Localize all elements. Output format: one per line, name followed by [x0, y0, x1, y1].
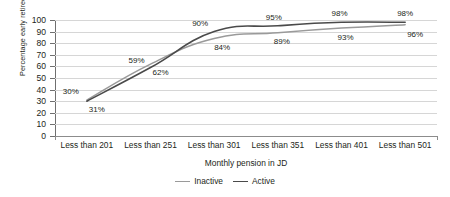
x-tick-label-5: Less than 501 [379, 141, 432, 149]
x-tick-label-4: Less than 401 [315, 141, 368, 149]
x-tick-label-1: Less than 251 [124, 141, 177, 149]
y-tick-100: 100 [32, 16, 46, 25]
y-tick-70: 70 [36, 51, 46, 60]
data-label-inactive-1: 62% [152, 69, 168, 77]
x-tick-label-2: Less than 301 [188, 141, 241, 149]
legend-line-icon-inactive [175, 181, 190, 182]
data-label-inactive-2: 84% [214, 44, 230, 52]
y-tick-90: 90 [36, 27, 46, 36]
x-axis-tick-labels: Less than 201Less than 251Less than 301L… [55, 141, 437, 155]
y-tick-30: 30 [36, 97, 46, 106]
y-tick-50: 50 [36, 74, 46, 83]
chart-legend: Inactive Active [0, 176, 450, 186]
y-tick-80: 80 [36, 39, 46, 48]
x-tick-label-3: Less than 351 [252, 141, 305, 149]
legend-item-inactive[interactable]: Inactive [175, 176, 223, 186]
y-axis-tick-labels: 100 90 80 70 60 50 40 30 20 10 0 [26, 20, 50, 136]
x-tick-label-0: Less than 201 [61, 141, 114, 149]
legend-item-active[interactable]: Active [233, 176, 275, 186]
x-tickmark-start [55, 136, 56, 140]
x-axis-title: Monthly pension in JD [55, 158, 437, 168]
data-label-active-1: 59% [128, 57, 144, 65]
data-label-inactive-3: 89% [274, 38, 290, 46]
data-label-inactive-5: 96% [407, 31, 423, 39]
legend-label-inactive: Inactive [194, 176, 223, 186]
data-label-active-5: 98% [397, 10, 413, 18]
legend-line-icon-active [233, 181, 248, 182]
data-label-active-2: 90% [192, 20, 208, 28]
legend-label-active: Active [252, 176, 275, 186]
x-tickmark-end [437, 136, 438, 140]
data-label-active-3: 95% [266, 14, 282, 22]
data-label-active-0: 30% [63, 88, 79, 96]
data-label-inactive-4: 93% [337, 34, 353, 42]
plot-area: 30%59%90%95%98%98%31%62%84%89%93%96% [55, 20, 437, 136]
y-tick-60: 60 [36, 62, 46, 71]
data-label-inactive-0: 31% [89, 106, 105, 114]
series-lines [55, 20, 437, 136]
y-tick-10: 10 [36, 120, 46, 129]
y-tick-20: 20 [36, 109, 46, 118]
data-label-active-4: 98% [331, 10, 347, 18]
line-chart: Percentage early retirees 100 90 80 70 6… [0, 0, 450, 197]
y-tick-0: 0 [41, 132, 46, 141]
gridline-0 [55, 136, 437, 137]
y-tick-40: 40 [36, 85, 46, 94]
